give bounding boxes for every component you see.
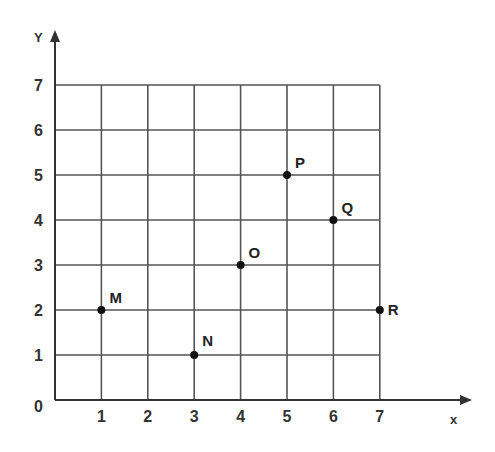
point-marker-icon [329,216,337,224]
y-axis-arrow-icon [50,30,60,42]
x-tick-label: 3 [190,408,199,425]
y-tick-label: 1 [34,347,43,364]
x-tick-label: 6 [329,408,338,425]
y-tick-label: 3 [34,257,43,274]
axes: Y x [34,30,472,427]
x-tick-labels: 1234567 [97,408,384,425]
point-marker-icon [283,171,291,179]
grid-lines [55,85,380,400]
point-label: O [249,244,261,261]
x-tick-label: 4 [236,408,245,425]
point-marker-icon [376,306,384,314]
y-tick-label: 0 [34,398,43,415]
x-axis-label: x [450,412,458,427]
y-tick-label: 6 [34,122,43,139]
point-label: Q [341,199,353,216]
x-tick-label: 1 [97,408,106,425]
point-label: N [202,332,213,349]
coordinate-grid-chart: Y x 1234567 01234567 MNOPQR [0,0,495,452]
y-tick-label: 5 [34,167,43,184]
point-marker-icon [97,306,105,314]
x-tick-label: 5 [283,408,292,425]
y-tick-label: 2 [34,302,43,319]
point-label: R [388,301,399,318]
data-points: MNOPQR [97,154,398,359]
y-tick-label: 4 [34,212,43,229]
point-label: P [295,154,305,171]
x-axis-arrow-icon [460,395,472,405]
x-tick-label: 2 [143,408,152,425]
point-label: M [109,289,122,306]
y-tick-labels: 01234567 [34,77,43,415]
x-tick-label: 7 [375,408,384,425]
y-axis-label: Y [34,30,43,45]
point-marker-icon [190,351,198,359]
point-marker-icon [237,261,245,269]
y-tick-label: 7 [34,77,43,94]
